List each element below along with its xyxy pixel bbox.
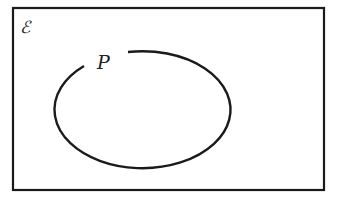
set-p-label: P bbox=[96, 51, 111, 73]
venn-diagram: ℰ P bbox=[0, 0, 339, 197]
universal-set-rectangle bbox=[13, 8, 324, 190]
